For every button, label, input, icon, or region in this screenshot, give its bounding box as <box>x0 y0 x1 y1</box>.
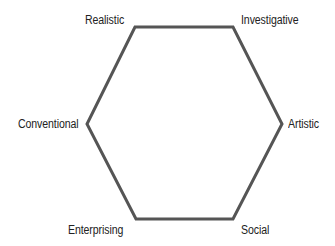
label-social: Social <box>241 223 269 237</box>
hexagon-outline <box>87 27 282 219</box>
label-conventional: Conventional <box>18 117 79 131</box>
label-investigative: Investigative <box>241 13 299 27</box>
label-enterprising: Enterprising <box>68 223 123 237</box>
label-artistic: Artistic <box>288 117 319 131</box>
label-realistic: Realistic <box>85 13 124 27</box>
